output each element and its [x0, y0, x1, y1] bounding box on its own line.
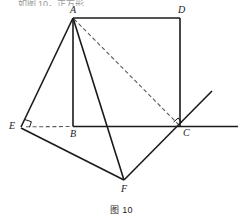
- right-angle-mark-e: [25, 120, 31, 128]
- figure-caption: 图 10: [0, 203, 243, 216]
- segment-ae: [21, 18, 73, 127]
- vertex-label-c: C: [183, 128, 190, 138]
- segment-fc-ray: [124, 91, 212, 180]
- geometry-figure: … 如图 10，正方形 … A D B C E F 图 10: [0, 0, 243, 223]
- vertex-label-f: F: [121, 184, 127, 194]
- vertex-label-d: D: [178, 5, 185, 15]
- vertex-label-b: B: [70, 129, 76, 139]
- vertex-label-e: E: [9, 121, 15, 131]
- vertex-label-a: A: [70, 5, 76, 15]
- segment-af: [73, 18, 124, 180]
